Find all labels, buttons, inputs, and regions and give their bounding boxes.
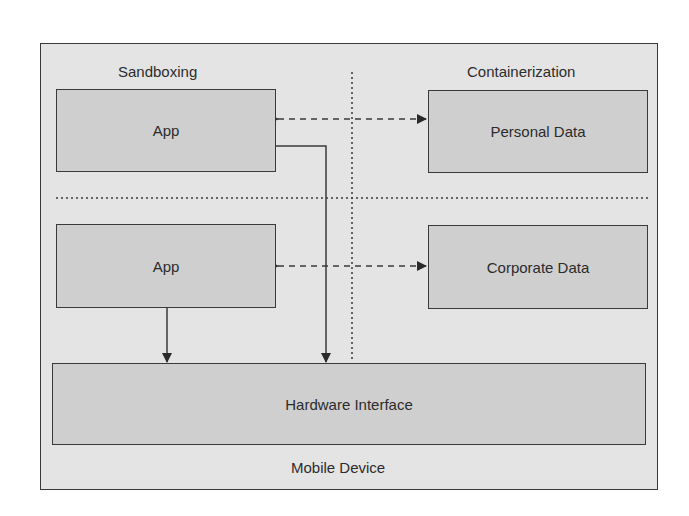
app-top-box: App bbox=[56, 89, 276, 172]
app-bottom-box: App bbox=[56, 224, 276, 308]
personal-data-box: Personal Data bbox=[428, 90, 648, 173]
corporate-data-box: Corporate Data bbox=[428, 225, 648, 309]
mobile-device-label: Mobile Device bbox=[291, 459, 385, 476]
app-top-hardware-arrow bbox=[275, 146, 326, 362]
hardware-interface-box: Hardware Interface bbox=[52, 363, 646, 445]
